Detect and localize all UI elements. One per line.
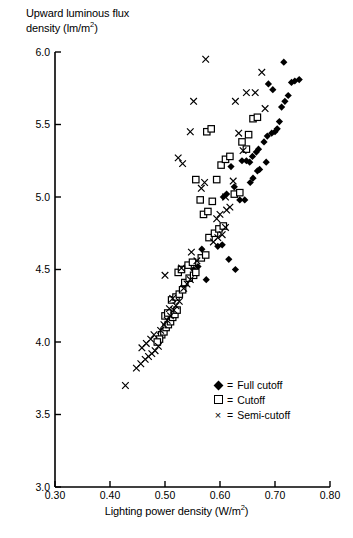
x-axis-title-end: ) (245, 505, 249, 517)
data-point-open-square (208, 126, 214, 132)
legend-item-semi-cutoff: × = Semi-cutoff (212, 408, 290, 423)
y-axis-ticks: 3.03.54.04.55.05.56.0 (35, 46, 61, 493)
data-point-open-square (193, 269, 199, 275)
x-axis-title: Lighting power density (W/m2) (0, 505, 353, 517)
data-point-cross (230, 178, 237, 185)
data-point-cross (198, 185, 205, 192)
data-point-cross (187, 128, 194, 135)
data-point-filled-diamond (203, 276, 210, 283)
data-point-open-square (174, 307, 180, 313)
data-point-cross (243, 89, 250, 96)
data-point-open-square (203, 252, 209, 258)
data-point-cross (122, 382, 129, 389)
data-point-filled-diamond (285, 92, 292, 99)
x-tick-label: 0.70 (265, 489, 286, 501)
data-point-cross (162, 272, 169, 279)
data-point-filled-diamond (227, 163, 234, 170)
x-tick-label: 0.40 (100, 489, 121, 501)
data-point-cross (188, 249, 195, 256)
x-tick-label: 0.30 (45, 489, 66, 501)
data-point-cross (262, 105, 269, 112)
data-point-cross (235, 130, 242, 137)
data-point-open-square (205, 208, 211, 214)
data-point-open-square (193, 176, 199, 182)
legend-equals-cutoff: = (227, 393, 233, 408)
open-square-icon (212, 393, 224, 408)
plot-area: 3.03.54.04.55.05.56.0 0.300.400.500.600.… (0, 0, 353, 538)
data-point-cross (151, 331, 158, 338)
data-point-open-square (209, 198, 215, 204)
data-point-open-square (239, 139, 245, 145)
data-point-filled-diamond (238, 157, 245, 164)
legend-label-semi-cutoff: Semi-cutoff (237, 408, 290, 423)
legend-label-cutoff: Cutoff (237, 393, 265, 408)
data-point-filled-diamond (260, 138, 267, 145)
data-point-open-square (237, 189, 243, 195)
y-tick-label: 4.0 (35, 336, 50, 348)
data-point-cross (201, 179, 208, 186)
data-point-cross (213, 215, 220, 222)
y-tick-label: 6.0 (35, 46, 50, 58)
x-tick-label: 0.80 (320, 489, 341, 501)
legend-equals-full-cutoff: = (227, 378, 233, 393)
legend: = Full cutoff = Cutoff × = Semi-cutoff (212, 378, 290, 423)
cross-icon: × (212, 408, 224, 423)
data-point-filled-diamond (280, 59, 287, 66)
legend-item-full-cutoff: = Full cutoff (212, 378, 290, 393)
data-point-cross (190, 98, 197, 105)
data-point-open-square (197, 197, 203, 203)
x-tick-label: 0.50 (155, 489, 176, 501)
data-point-cross (217, 211, 224, 218)
scatter-chart-figure: Upward luminous flux density (lm/m2) 3.0… (0, 0, 353, 538)
data-point-open-square (214, 176, 220, 182)
data-point-filled-diamond (225, 256, 232, 263)
data-point-cross (175, 155, 182, 162)
y-tick-label: 5.5 (35, 118, 50, 130)
y-tick-label: 5.0 (35, 191, 50, 203)
x-axis-ticks: 0.300.400.500.600.700.80 (45, 481, 341, 501)
data-point-cross (227, 204, 234, 211)
data-point-cross (147, 336, 154, 343)
legend-label-full-cutoff: Full cutoff (237, 378, 282, 393)
x-tick-label: 0.60 (210, 489, 231, 501)
data-point-cross (179, 160, 186, 167)
data-point-filled-diamond (241, 196, 248, 203)
data-point-filled-diamond (281, 98, 288, 105)
data-point-filled-diamond (263, 159, 270, 166)
x-axis-title-text: Lighting power density (W/m (105, 505, 241, 517)
data-point-open-square (245, 131, 251, 137)
data-point-cross (202, 56, 209, 63)
data-point-filled-diamond (269, 86, 276, 93)
data-point-filled-diamond (265, 80, 272, 87)
data-point-cross (252, 89, 259, 96)
filled-diamond-icon (212, 378, 224, 393)
data-point-cross (232, 98, 239, 105)
data-point-filled-diamond (232, 266, 239, 273)
legend-item-cutoff: = Cutoff (212, 393, 290, 408)
data-point-open-square (227, 153, 233, 159)
data-point-filled-diamond (276, 118, 283, 125)
data-point-open-square (154, 339, 160, 345)
data-point-cross (152, 347, 159, 354)
data-point-cross (259, 69, 266, 76)
legend-equals-semi-cutoff: = (227, 408, 233, 423)
data-points-group (122, 56, 303, 389)
y-tick-label: 4.5 (35, 263, 50, 275)
y-tick-label: 3.5 (35, 408, 50, 420)
data-point-filled-diamond (278, 104, 285, 111)
data-point-open-square (254, 114, 260, 120)
